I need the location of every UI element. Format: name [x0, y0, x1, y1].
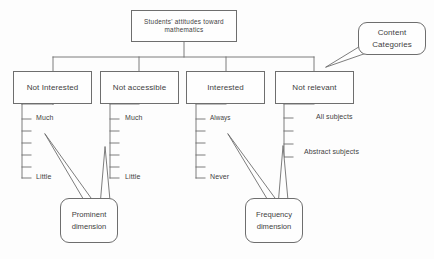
branch-node-label: Interested — [207, 83, 244, 93]
scale-3-bottom-label: Never — [210, 173, 229, 180]
root-node-label: Students' attitudes toward mathematics — [136, 18, 232, 34]
root-node[interactable]: Students' attitudes toward mathematics — [131, 10, 237, 42]
prominent-dimension-line2: dimension — [72, 221, 107, 232]
branch-node-not-relevant[interactable]: Not relevant — [275, 71, 354, 104]
content-categories-label: Content Categories — [359, 27, 425, 50]
frequency-dimension-line1: Frequency — [256, 209, 292, 220]
prominent-dimension-callout[interactable]: Prominent dimension — [60, 198, 118, 243]
frequency-dimension-line2: dimension — [257, 221, 292, 232]
branch-node-label: Not relevant — [292, 83, 336, 93]
scale-1-top-label: Much — [36, 114, 54, 121]
branch-node-not-accessible[interactable]: Not accessible — [100, 71, 179, 104]
scale-4-top-label: All subjects — [316, 113, 353, 120]
branch-node-label: Not accessible — [113, 83, 166, 93]
frequency-pointer-right — [278, 146, 288, 206]
scale-4-bottom-label: Abstract subjects — [304, 148, 359, 155]
scale-1-bottom-label: Little — [36, 173, 51, 180]
prominent-pointer-left — [45, 134, 94, 207]
frequency-dimension-callout[interactable]: Frequency dimension — [245, 198, 303, 243]
scale-2-bottom-label: Little — [125, 173, 140, 180]
diagram-canvas: Students' attitudes toward mathematics C… — [0, 0, 434, 259]
branch-node-label: Not Interested — [27, 83, 79, 93]
prominent-dimension-line1: Prominent — [72, 209, 107, 220]
branch-node-not-interested[interactable]: Not Interested — [13, 71, 92, 104]
scale-2-top-label: Much — [125, 114, 143, 121]
frequency-pointer-left — [228, 134, 278, 207]
content-categories-callout[interactable]: Content Categories — [358, 22, 426, 55]
scale-3-top-label: Always — [210, 114, 231, 121]
branch-node-interested[interactable]: Interested — [186, 71, 265, 104]
